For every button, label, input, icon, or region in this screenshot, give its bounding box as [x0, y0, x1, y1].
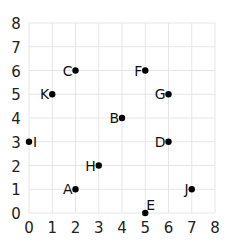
point-marker-icon: [165, 91, 171, 97]
data-point-j: J: [184, 181, 195, 197]
point-label: G: [155, 86, 166, 102]
point-label: H: [85, 158, 96, 174]
data-points: ABCDEFGHIJK: [26, 63, 195, 217]
y-tick-label: 4: [11, 110, 21, 128]
data-point-b: B: [109, 110, 125, 126]
point-marker-icon: [72, 67, 78, 73]
data-point-g: G: [155, 86, 172, 102]
x-tick-label: 7: [187, 219, 197, 237]
y-tick-label: 3: [11, 134, 21, 152]
data-point-h: H: [85, 158, 102, 174]
y-tick-label: 5: [11, 86, 21, 104]
x-tick-label: 6: [164, 219, 174, 237]
point-marker-icon: [49, 91, 55, 97]
data-point-i: I: [26, 134, 37, 150]
x-tick-label: 1: [47, 219, 57, 237]
data-point-f: F: [134, 63, 148, 79]
scatter-chart: 012345678 012345678 ABCDEFGHIJK: [0, 0, 229, 246]
data-point-a: A: [63, 181, 79, 197]
point-label: B: [109, 110, 119, 126]
point-label: J: [184, 181, 189, 197]
point-marker-icon: [189, 186, 195, 192]
point-label: A: [63, 181, 73, 197]
data-point-d: D: [155, 134, 172, 150]
y-tick-label: 1: [11, 181, 21, 199]
y-axis-ticks: 012345678: [11, 15, 21, 223]
x-tick-label: 0: [24, 219, 34, 237]
point-marker-icon: [72, 186, 78, 192]
point-label: K: [40, 86, 50, 102]
point-marker-icon: [119, 115, 125, 121]
y-tick-label: 8: [11, 15, 21, 33]
x-tick-label: 4: [117, 219, 127, 237]
y-tick-label: 0: [11, 205, 21, 223]
point-label: C: [63, 63, 73, 79]
y-tick-label: 2: [11, 158, 21, 176]
point-marker-icon: [142, 67, 148, 73]
point-label: D: [155, 134, 166, 150]
data-point-c: C: [63, 63, 79, 79]
x-tick-label: 5: [140, 219, 150, 237]
point-label: I: [33, 134, 37, 150]
point-label: F: [134, 63, 142, 79]
point-marker-icon: [26, 139, 32, 145]
x-tick-label: 8: [210, 219, 220, 237]
y-tick-label: 6: [11, 63, 21, 81]
point-marker-icon: [96, 162, 102, 168]
x-tick-label: 2: [71, 219, 81, 237]
y-tick-label: 7: [11, 39, 21, 57]
point-marker-icon: [165, 139, 171, 145]
data-point-k: K: [40, 86, 55, 102]
x-axis-ticks: 012345678: [24, 219, 220, 237]
x-tick-label: 3: [94, 219, 104, 237]
point-label: E: [146, 197, 155, 213]
